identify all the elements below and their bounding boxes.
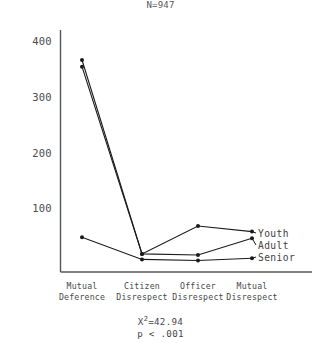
x-tick-label-mutual-disrespect: MutualDisrespect <box>217 281 287 303</box>
data-point <box>196 259 200 263</box>
legend-item-youth: Youth <box>258 228 289 239</box>
series-line-youth <box>82 60 252 254</box>
data-point <box>80 58 84 62</box>
series-layer <box>80 58 254 263</box>
legend-leader-adult <box>252 238 256 245</box>
x-tick-label-line: Disrespect <box>217 292 287 303</box>
p-value-line: p < .001 <box>0 328 321 340</box>
chi-square-value: =42.94 <box>148 316 183 327</box>
y-tick-label: 300 <box>8 91 52 103</box>
legend-item-adult: Adult <box>258 240 289 251</box>
data-point <box>196 224 200 228</box>
data-point <box>80 65 84 69</box>
chi-square-line: X2=42.94 <box>0 313 321 328</box>
data-point <box>140 257 144 261</box>
data-point <box>80 235 84 239</box>
y-tick-label: 400 <box>8 35 52 47</box>
y-tick-label: 200 <box>8 147 52 159</box>
statistics-annotation: X2=42.94 p < .001 <box>0 313 321 340</box>
legend-item-senior: Senior <box>258 252 295 263</box>
series-line-senior <box>82 237 252 260</box>
chart-figure: N=947 100 200 300 400 MutualDeference Ci… <box>0 0 321 343</box>
data-point <box>140 252 144 256</box>
y-tick-label: 100 <box>8 202 52 214</box>
data-point <box>196 253 200 257</box>
legend-leader-lines <box>252 232 256 259</box>
x-tick-label-line: Mutual <box>217 281 287 292</box>
series-line-adult <box>82 67 252 255</box>
